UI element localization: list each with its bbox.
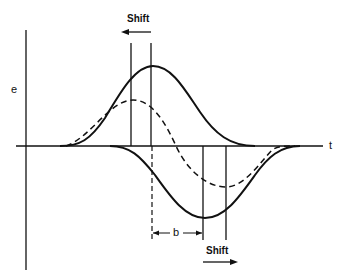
shift-bottom-label: Shift [206,246,228,256]
x-axis-label: t [329,140,332,151]
shift-bottom-arrowhead [230,259,238,265]
dashed-difference-curve [66,100,295,187]
offset-b-label: b [173,227,179,238]
shift-top-arrowhead [121,29,129,35]
diagram-canvas [0,0,341,273]
pulse-shift-diagram: e t Shift Shift b [0,0,341,273]
lower-solid-pulse [110,146,300,218]
y-axis-label: e [11,84,17,95]
upper-solid-pulse [60,66,255,146]
b-arrowhead-left [153,231,159,236]
shift-top-label: Shift [127,14,149,24]
b-arrowhead-right [196,231,202,236]
